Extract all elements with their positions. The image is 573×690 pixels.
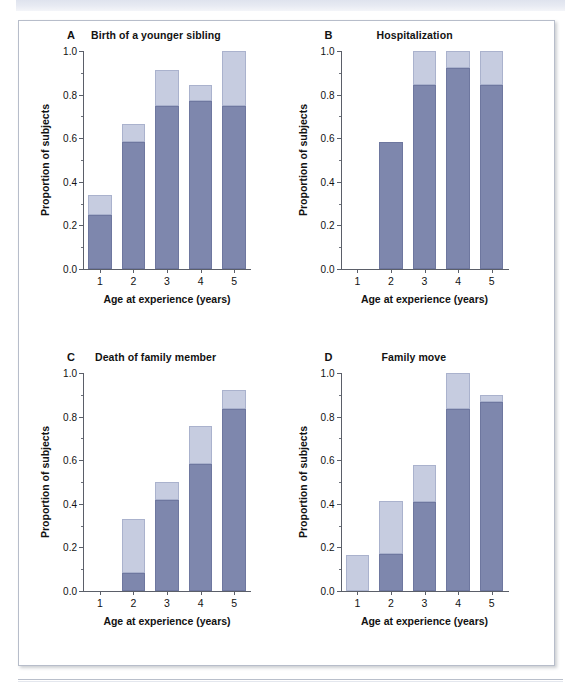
x-axis-label: Age at experience (years) <box>69 293 265 305</box>
plot-area <box>341 373 509 591</box>
x-tick <box>100 269 101 273</box>
x-tick <box>133 591 134 595</box>
figure-frame: A Birth of a younger sibling Proportion … <box>18 20 555 666</box>
page-bottom-rule-shadow <box>18 681 563 682</box>
x-tick <box>458 269 459 273</box>
panel-a: A Birth of a younger sibling Proportion … <box>19 21 287 343</box>
bar-stack <box>122 519 146 591</box>
x-axis-label: Age at experience (years) <box>327 615 523 627</box>
y-axis-label: Proportion of subjects <box>297 51 309 269</box>
bar-stack <box>413 51 437 269</box>
bar-segment-dark <box>222 106 246 270</box>
y-tick-label: 0.2 <box>47 542 77 553</box>
panel-d-plot: Proportion of subjects0.00.20.40.60.81.0… <box>287 343 555 665</box>
y-tick-label: 0.8 <box>47 412 77 423</box>
y-tick-label: 0.6 <box>47 133 77 144</box>
bar-stack <box>155 70 179 270</box>
x-tick-label: 4 <box>455 597 461 609</box>
bar-segment-dark <box>189 101 213 269</box>
y-axis-label: Proportion of subjects <box>39 373 51 591</box>
bar-stack <box>446 51 470 269</box>
bar-stack <box>222 390 246 591</box>
x-tick <box>425 269 426 273</box>
bar-stack <box>413 465 437 591</box>
x-tick-label: 2 <box>130 597 136 609</box>
y-tick-label: 0.4 <box>47 177 77 188</box>
bar-segment-dark <box>446 68 470 269</box>
bar-segment-light <box>222 51 246 106</box>
bar-segment-dark <box>480 85 504 269</box>
x-tick-label: 2 <box>388 275 394 287</box>
bar-segment-light <box>222 390 246 409</box>
x-tick <box>234 269 235 273</box>
x-tick <box>201 269 202 273</box>
bar-segment-dark <box>480 402 504 591</box>
x-tick <box>458 591 459 595</box>
bar-stack <box>189 426 213 591</box>
bar-segment-light <box>155 70 179 106</box>
bar-segment-dark <box>379 142 403 269</box>
panel-a-plot: Proportion of subjects0.00.20.40.60.81.0… <box>19 21 287 343</box>
y-tick-label: 0.6 <box>47 455 77 466</box>
figure-page: A Birth of a younger sibling Proportion … <box>0 0 573 690</box>
bar-stack <box>480 51 504 269</box>
bar-segment-light <box>122 124 146 141</box>
x-tick-label: 4 <box>455 275 461 287</box>
x-tick-label: 2 <box>130 275 136 287</box>
x-tick-label: 3 <box>164 597 170 609</box>
y-tick-label: 1.0 <box>305 368 335 379</box>
y-tick-label: 0.6 <box>305 133 335 144</box>
y-tick-label: 0.4 <box>47 499 77 510</box>
y-tick-label: 1.0 <box>47 368 77 379</box>
x-tick <box>391 269 392 273</box>
x-tick <box>167 269 168 273</box>
bar-segment-dark <box>222 409 246 591</box>
y-tick-label: 0.8 <box>47 90 77 101</box>
x-tick-label: 2 <box>388 597 394 609</box>
x-tick-label: 4 <box>198 597 204 609</box>
bar-segment-light <box>88 195 112 215</box>
x-tick-label: 1 <box>354 597 360 609</box>
x-tick-label: 1 <box>97 597 103 609</box>
y-tick-label: 0.0 <box>305 264 335 275</box>
x-tick <box>234 591 235 595</box>
y-tick-label: 0.4 <box>305 499 335 510</box>
panel-b: B Hospitalization Proportion of subjects… <box>287 21 555 343</box>
y-tick-label: 0.0 <box>47 264 77 275</box>
x-axis-label: Age at experience (years) <box>69 615 265 627</box>
y-tick-major <box>79 591 83 592</box>
page-top-band <box>16 0 565 11</box>
bar-segment-dark <box>189 464 213 592</box>
panel-d: D Family move Proportion of subjects0.00… <box>287 343 555 665</box>
y-tick-label: 0.8 <box>305 412 335 423</box>
x-tick-label: 5 <box>489 597 495 609</box>
x-tick <box>167 591 168 595</box>
bar-segment-dark <box>88 215 112 270</box>
page-bottom-rule <box>18 679 563 680</box>
plot-area <box>341 51 509 269</box>
bar-stack <box>189 85 213 269</box>
x-tick <box>391 591 392 595</box>
y-tick-label: 0.2 <box>47 220 77 231</box>
x-tick-label: 1 <box>97 275 103 287</box>
bar-segment-light <box>189 426 213 463</box>
x-tick <box>357 591 358 595</box>
bar-segment-light <box>155 482 179 500</box>
bar-stack <box>155 482 179 591</box>
panel-b-plot: Proportion of subjects0.00.20.40.60.81.0… <box>287 21 555 343</box>
y-tick-major <box>337 269 341 270</box>
x-tick-label: 4 <box>198 275 204 287</box>
bar-segment-light <box>446 51 470 68</box>
y-tick-major <box>79 269 83 270</box>
bar-stack <box>122 124 146 269</box>
bar-segment-light <box>480 51 504 85</box>
y-axis-label: Proportion of subjects <box>39 51 51 269</box>
x-tick-label: 3 <box>164 275 170 287</box>
bar-segment-light <box>413 465 437 502</box>
bar-segment-light <box>122 519 146 573</box>
bar-stack <box>379 501 403 591</box>
x-tick-label: 5 <box>231 597 237 609</box>
y-tick-label: 0.0 <box>47 586 77 597</box>
bar-segment-dark <box>122 573 146 591</box>
bar-segment-dark <box>413 85 437 269</box>
